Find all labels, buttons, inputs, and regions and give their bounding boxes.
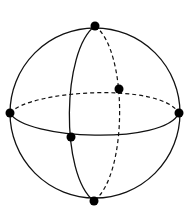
equator-front (10, 113, 179, 135)
point-top (91, 22, 100, 31)
point-back (115, 85, 124, 94)
point-front (67, 133, 76, 142)
meridian-front (69, 26, 95, 201)
point-left (6, 109, 15, 118)
sphere-diagram (0, 0, 194, 209)
equator-back (10, 93, 179, 113)
sphere-outline (10, 28, 180, 198)
meridian-back (94, 26, 120, 201)
point-right (175, 109, 184, 118)
point-bottom (90, 197, 99, 206)
